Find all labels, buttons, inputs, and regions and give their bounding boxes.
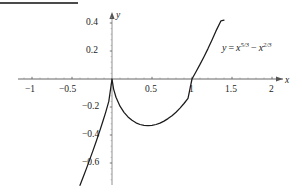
x-tick-label-0.5: 0.5 — [145, 85, 157, 95]
x-axis-label: x — [285, 76, 289, 86]
y-tick-label--0.2: −0.2 — [82, 102, 99, 112]
y-axis — [109, 12, 114, 185]
y-axis-label: y — [116, 11, 120, 21]
equation-lhs: y — [222, 42, 226, 53]
equation-equals: = — [228, 42, 234, 53]
equation-exponent-1: 5/3 — [241, 41, 249, 48]
equation-exponent-2: 2/3 — [263, 41, 271, 48]
curve-path — [80, 20, 224, 185]
curve-equation-label: y=x5/3−x2/3 — [222, 42, 272, 53]
equation-operator: − — [251, 42, 257, 53]
figure-canvas: 0.4 0.2 −0.2 −0.4 −0.6 −1 −0.5 0.5 1 1.5… — [0, 0, 302, 192]
x-axis — [18, 76, 283, 81]
x-tick-label-2: 2 — [269, 85, 274, 95]
y-tick-label--0.4: −0.4 — [82, 130, 99, 140]
x-tick-label--1: −1 — [25, 85, 35, 95]
plot-svg — [0, 0, 302, 192]
x-tick-label--0.5: −0.5 — [59, 85, 76, 95]
x-tick-label-1: 1 — [189, 85, 194, 95]
y-tick-label--0.6: −0.6 — [82, 158, 99, 168]
y-tick-label-0.4: 0.4 — [86, 18, 98, 28]
y-tick-label-0.2: 0.2 — [86, 46, 98, 56]
x-tick-label-1.5: 1.5 — [225, 85, 237, 95]
